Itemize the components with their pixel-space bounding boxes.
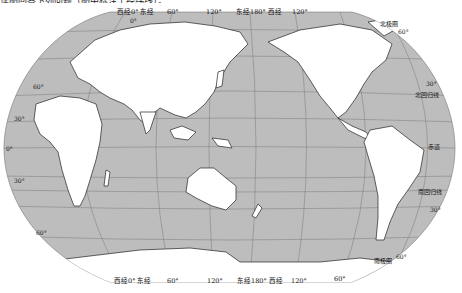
tropic-of-capricorn-label: 南回归线	[418, 188, 442, 195]
top-lon-label-5: 120°	[292, 9, 308, 16]
top-lon-label-1: 0°	[130, 17, 137, 24]
lat-label-6: 30°	[426, 80, 437, 87]
lat-label-2: 0°	[6, 145, 13, 152]
bottom-lon-label-0: 西经0° 东经	[114, 278, 151, 285]
top-lon-label-3: 120°	[206, 9, 222, 16]
lat-label-4: 60°	[36, 229, 47, 236]
top-lon-label-0: 西经0° 东经	[117, 9, 154, 16]
lat-label-7: 30°	[430, 206, 441, 213]
bottom-lon-label-3: 东经180° 西经	[237, 278, 283, 285]
lat-label-8: 60°	[396, 253, 407, 260]
bottom-lon-label-2: 120°	[207, 278, 223, 285]
lat-label-5: 60°	[398, 28, 409, 35]
lat-label-0: 60°	[33, 83, 44, 90]
world-map	[0, 0, 462, 293]
bottom-lon-label-1: 60°	[167, 278, 179, 285]
bottom-lon-label-4: 120°	[291, 278, 307, 285]
top-lon-label-4: 东经180° 西经	[236, 9, 282, 16]
bottom-lon-label-5: 60°	[334, 276, 346, 283]
top-lon-label-2: 60°	[167, 9, 179, 16]
antarctic-circle-label: 南极圈	[374, 257, 392, 264]
equator-label: 赤道	[428, 143, 440, 150]
lat-label-3: 30°	[14, 177, 25, 184]
tropic-of-cancer-label: 北回归线	[415, 91, 439, 98]
arctic-circle-label: 北极圈	[380, 20, 398, 27]
lat-label-1: 30°	[14, 115, 25, 122]
